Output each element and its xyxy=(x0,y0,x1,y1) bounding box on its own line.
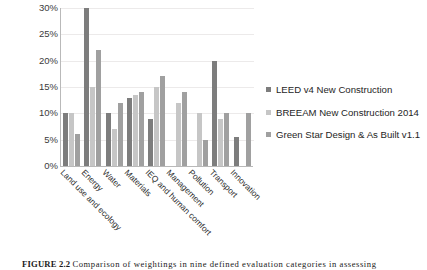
bar-groups xyxy=(61,8,253,166)
bar xyxy=(106,113,111,166)
y-axis-tick: 15% xyxy=(39,82,58,92)
legend-swatch-icon xyxy=(266,132,271,137)
bar xyxy=(90,87,95,166)
bar xyxy=(154,87,159,166)
bar xyxy=(84,8,89,166)
bar xyxy=(69,113,74,166)
legend-label: Green Star Design & As Built v1.1 xyxy=(276,129,420,141)
x-axis-category-labels: Land use and ecologyEnergyWaterMaterials… xyxy=(60,168,252,250)
legend-item[interactable]: LEED v4 New Construction xyxy=(266,84,424,96)
bar xyxy=(212,61,217,166)
bar-group xyxy=(232,8,253,166)
legend-label: LEED v4 New Construction xyxy=(276,84,392,96)
bar-group xyxy=(61,8,82,166)
chart-area: 0%5%10%15%20%25%30% Land use and ecology… xyxy=(0,0,262,250)
bar xyxy=(148,119,153,166)
bar xyxy=(63,113,68,166)
legend-item[interactable]: Green Star Design & As Built v1.1 xyxy=(266,129,424,141)
chart-legend: LEED v4 New ConstructionBREEAM New Const… xyxy=(266,84,424,152)
bar-group xyxy=(189,8,210,166)
bar xyxy=(218,119,223,166)
legend-item[interactable]: BREEAM New Construction 2014 xyxy=(266,107,424,119)
figure-caption: FIGURE 2.2 Comparison of weightings in n… xyxy=(22,259,414,270)
bar xyxy=(197,113,202,166)
bar xyxy=(224,113,229,166)
legend-swatch-icon xyxy=(266,110,271,115)
bar-group xyxy=(168,8,189,166)
y-axis-tick: 10% xyxy=(39,109,58,119)
y-axis-tick: 0% xyxy=(44,161,58,171)
bar-group xyxy=(104,8,125,166)
caption-label: FIGURE 2.2 xyxy=(22,259,70,269)
bar xyxy=(118,103,123,166)
bar-group xyxy=(210,8,231,166)
bar xyxy=(182,92,187,166)
bar xyxy=(203,140,208,166)
legend-label: BREEAM New Construction 2014 xyxy=(276,107,419,119)
bar xyxy=(160,76,165,166)
y-axis-tick-labels: 0%5%10%15%20%25%30% xyxy=(18,8,58,166)
bar xyxy=(176,103,181,166)
bar-group xyxy=(146,8,167,166)
legend-swatch-icon xyxy=(266,87,271,92)
figure-container: 0%5%10%15%20%25%30% Land use and ecology… xyxy=(0,0,427,270)
bar xyxy=(75,134,80,166)
y-axis-tick: 25% xyxy=(39,30,58,40)
bar xyxy=(139,92,144,166)
caption-text: Comparison of weightings in nine defined… xyxy=(72,259,376,269)
bar xyxy=(112,129,117,166)
bar xyxy=(96,50,101,166)
y-axis-tick: 5% xyxy=(44,135,58,145)
plot-area xyxy=(60,8,253,167)
y-axis-tick: 20% xyxy=(39,56,58,66)
bar xyxy=(234,137,239,166)
bar-group xyxy=(82,8,103,166)
bar xyxy=(133,95,138,166)
y-axis-tick: 30% xyxy=(39,3,58,13)
bar-group xyxy=(125,8,146,166)
bar xyxy=(127,98,132,166)
bar xyxy=(246,113,251,166)
